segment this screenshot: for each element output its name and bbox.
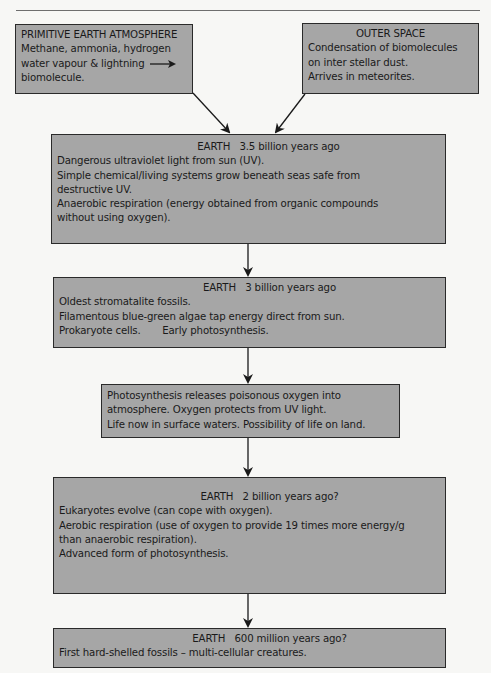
top-rule — [16, 10, 480, 11]
box-primitive-earth-atmosphere: PRIMITIVE EARTH ATMOSPHERE Methane, ammo… — [15, 24, 193, 94]
box-line: First hard-shelled fossils – multi-cellu… — [59, 646, 440, 660]
box-heading: OUTER SPACE — [308, 27, 473, 41]
box-line: Life now in surface waters. Possibility … — [107, 418, 394, 432]
box-earth-2-billion: EARTH 2 billion years ago? Eukaryotes ev… — [53, 477, 446, 594]
box-line: Prokaryote cells. Early photosynthesis. — [59, 324, 440, 338]
box-line: destructive UV. — [57, 183, 440, 197]
box-line: Simple chemical/living systems grow bene… — [57, 169, 440, 183]
box-line: biomolecule. — [21, 71, 187, 85]
arrow-outer-space-to-earth-3-5bn — [276, 94, 305, 132]
box-line: atmosphere. Oxygen protects from UV ligh… — [107, 403, 394, 417]
box-line: without using oxygen). — [57, 211, 440, 225]
box-line: Arrives in meteorites. — [308, 70, 473, 84]
box-line: Advanced form of photosynthesis. — [59, 547, 440, 561]
box-line: Filamentous blue-green algae tap energy … — [59, 310, 440, 324]
box-line: Oldest stromatalite fossils. — [59, 295, 440, 309]
box-line: Methane, ammonia, hydrogen — [21, 42, 187, 56]
box-heading: EARTH 3.5 billion years ago — [57, 140, 440, 154]
arrow-primitive-to-earth-3-5bn — [193, 93, 229, 132]
box-line: Eukaryotes evolve (can cope with oxygen)… — [59, 504, 440, 518]
box-line: Condensation of biomolecules — [308, 41, 473, 55]
box-line: Anaerobic respiration (energy obtained f… — [57, 197, 440, 211]
box-heading: EARTH 2 billion years ago? — [59, 490, 440, 504]
box-line: Photosynthesis releases poisonous oxygen… — [107, 389, 394, 403]
box-earth-600-million: EARTH 600 million years ago? First hard-… — [53, 628, 446, 668]
box-outer-space: OUTER SPACE Condensation of biomolecules… — [302, 23, 479, 94]
right-arrow-icon — [149, 59, 177, 69]
box-line: than anaerobic respiration). — [59, 533, 440, 547]
box-heading: EARTH 3 billion years ago — [59, 281, 440, 295]
box-line: Aerobic respiration (use of oxygen to pr… — [59, 519, 440, 533]
box-line: on inter stellar dust. — [308, 56, 473, 70]
box-photosynthesis-oxygen: Photosynthesis releases poisonous oxygen… — [101, 384, 400, 438]
box-heading: PRIMITIVE EARTH ATMOSPHERE — [21, 28, 187, 42]
box-earth-3-billion: EARTH 3 billion years ago Oldest stromat… — [53, 277, 446, 348]
box-earth-3-5-billion: EARTH 3.5 billion years ago Dangerous ul… — [51, 134, 446, 244]
box-line: Dangerous ultraviolet light from sun (UV… — [57, 154, 440, 168]
box-heading: EARTH 600 million years ago? — [59, 632, 440, 646]
box-line: water vapour & lightning — [21, 57, 187, 71]
